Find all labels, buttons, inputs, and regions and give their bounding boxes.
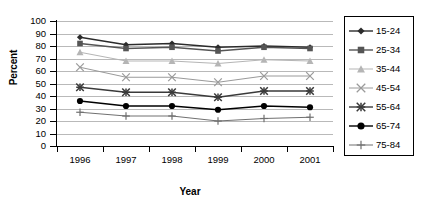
legend-marker-diamond-icon <box>348 23 374 39</box>
legend-marker-triangle-icon <box>348 61 374 77</box>
legend-marker-x-icon <box>348 80 374 96</box>
series-45-54 <box>76 63 314 86</box>
data-point-plus <box>168 112 176 120</box>
series-line <box>80 87 310 97</box>
legend-item-label: 75-84 <box>376 140 400 150</box>
series-line <box>80 112 310 121</box>
data-point-square <box>123 46 129 52</box>
data-point-asterisk <box>214 93 222 101</box>
legend: 15-2425-3435-4445-5455-6465-7475-84 <box>344 16 414 156</box>
legend-item-label: 55-64 <box>376 102 400 112</box>
data-point-plus <box>122 112 130 120</box>
data-point-asterisk <box>122 88 130 96</box>
data-point-asterisk <box>76 83 84 91</box>
data-point-circle <box>307 104 313 110</box>
series-line <box>80 67 310 82</box>
legend-marker-plus-icon <box>348 137 374 153</box>
data-point-square <box>261 44 267 50</box>
data-point-diamond <box>357 27 364 34</box>
data-point-square <box>358 46 365 53</box>
legend-marker-asterisk-icon <box>348 99 374 115</box>
legend-item-75-84[interactable]: 75-84 <box>348 135 410 154</box>
data-point-asterisk <box>260 87 268 95</box>
legend-item-25-34[interactable]: 25-34 <box>348 40 410 59</box>
series-65-74 <box>77 98 313 113</box>
legend-marker-circle-icon <box>348 118 374 134</box>
data-point-plus <box>357 140 366 149</box>
legend-item-label: 25-34 <box>376 45 400 55</box>
data-point-circle <box>123 103 129 109</box>
series-75-84 <box>76 108 314 124</box>
data-point-circle <box>169 103 175 109</box>
data-point-square <box>215 48 221 54</box>
series-35-44 <box>77 49 314 67</box>
data-point-asterisk <box>357 102 366 111</box>
data-point-circle <box>215 107 221 113</box>
data-point-circle <box>357 122 364 129</box>
series-line <box>80 52 310 63</box>
legend-item-35-44[interactable]: 35-44 <box>348 59 410 78</box>
series-line <box>80 101 310 110</box>
data-point-asterisk <box>168 88 176 96</box>
data-point-plus <box>214 117 222 125</box>
chart-container: Percent Year 0102030405060708090100 1996… <box>0 0 421 212</box>
legend-item-label: 65-74 <box>376 121 400 131</box>
data-point-plus <box>260 115 268 123</box>
legend-item-55-64[interactable]: 55-64 <box>348 97 410 116</box>
data-point-plus <box>76 108 84 116</box>
legend-marker-square-icon <box>348 42 374 58</box>
series-55-64 <box>76 83 314 101</box>
data-point-circle <box>261 103 267 109</box>
legend-item-45-54[interactable]: 45-54 <box>348 78 410 97</box>
data-point-diamond <box>77 34 83 40</box>
data-point-x <box>76 63 84 71</box>
legend-item-label: 45-54 <box>376 83 400 93</box>
legend-item-label: 35-44 <box>376 64 400 74</box>
legend-item-15-24[interactable]: 15-24 <box>348 21 410 40</box>
data-point-square <box>169 44 175 50</box>
series-line <box>80 44 310 52</box>
data-point-square <box>77 41 83 47</box>
data-point-triangle <box>77 49 84 56</box>
legend-item-label: 15-24 <box>376 26 400 36</box>
data-point-plus <box>306 113 314 121</box>
legend-item-65-74[interactable]: 65-74 <box>348 116 410 135</box>
data-point-circle <box>77 98 83 104</box>
data-point-asterisk <box>306 87 314 95</box>
data-point-square <box>307 46 313 52</box>
series-line <box>80 37 310 47</box>
